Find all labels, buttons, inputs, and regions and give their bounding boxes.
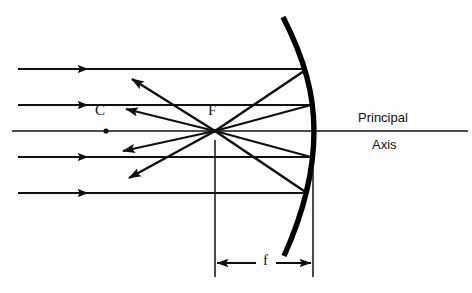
concave-mirror-ray-diagram: C F f Principal Axis [0,0,472,293]
label-principal-axis-line1: Principal [358,111,408,124]
label-focal-length: f [263,253,268,268]
focal-point-dot [213,129,217,133]
reflected-ray-lower-to-focus [215,131,311,157]
reflected-ray-bottom-to-focus [215,131,307,193]
label-center-of-curvature: C [95,103,105,118]
diverging-ray-lower-steep [129,131,215,178]
label-principal-axis-line2: Axis [372,138,397,151]
reflected-ray-top-to-focus [215,69,307,131]
diagram-canvas [0,0,472,293]
diverging-rays-from-focus-group [123,79,215,178]
concave-mirror-arc [283,17,314,256]
diverging-ray-lower-shallow [123,131,215,151]
center-of-curvature-dot [103,128,108,133]
diverging-ray-upper-shallow [126,109,215,131]
reflected-ray-upper-to-focus [215,105,311,131]
label-focal-point: F [208,103,216,118]
